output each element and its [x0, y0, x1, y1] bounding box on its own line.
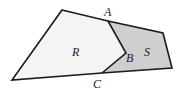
label-c: C: [93, 77, 102, 90]
label-region-r: R: [71, 45, 80, 59]
label-a: A: [103, 5, 112, 19]
label-b: B: [126, 51, 134, 65]
label-region-s: S: [144, 45, 150, 59]
polygon-diagram: A B C R S: [0, 0, 181, 90]
